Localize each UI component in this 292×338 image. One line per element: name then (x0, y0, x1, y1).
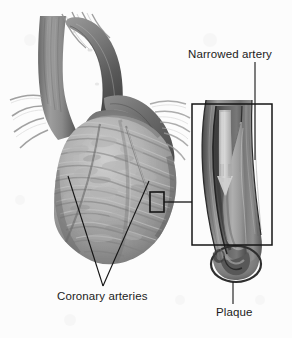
label-narrowed-artery: Narrowed artery (188, 48, 272, 60)
narrowed-artery-illustration (202, 100, 262, 282)
label-coronary-arteries: Coronary arteries (57, 290, 148, 302)
blood-flow-shaft (219, 110, 231, 178)
heart-illustration (10, 12, 190, 264)
label-plaque: Plaque (216, 306, 252, 318)
coronary-artery-figure: Narrowed artery Coronary arteries Plaque (0, 0, 292, 338)
